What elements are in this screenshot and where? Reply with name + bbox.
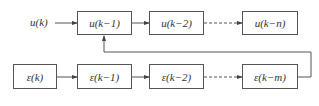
box-label: ε(k) [27, 71, 44, 83]
box-u-k-2: u(k−2) [149, 11, 204, 35]
box-epsilon-k-m: ε(k−m) [242, 64, 298, 89]
delay-line-diagram: u(k) u(k−1) u(k−2) u(k−n) ε(k) ε(k−1) ε(… [0, 0, 319, 106]
box-u-k-1: u(k−1) [77, 11, 132, 35]
box-epsilon-k-1: ε(k−1) [77, 64, 132, 89]
box-label: ε(k−2) [162, 71, 191, 83]
box-u-k-n: u(k−n) [242, 11, 298, 35]
input-label-uk: u(k) [30, 16, 48, 28]
box-label: u(k−1) [89, 17, 120, 29]
box-label: ε(k−1) [90, 71, 119, 83]
box-epsilon-k: ε(k) [13, 64, 57, 89]
box-label: u(k−2) [161, 17, 192, 29]
box-label: u(k−n) [255, 17, 286, 29]
box-label: ε(k−m) [254, 71, 286, 83]
box-epsilon-k-2: ε(k−2) [149, 64, 204, 89]
